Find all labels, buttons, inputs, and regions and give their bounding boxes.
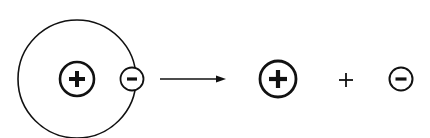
free-electron-icon — [390, 68, 413, 91]
plus-operator-icon — [339, 73, 353, 87]
ionization-diagram — [0, 0, 430, 138]
nucleus-proton-icon — [60, 62, 94, 96]
reaction-arrow-icon — [160, 76, 226, 83]
free-proton-icon — [260, 61, 296, 97]
bound-electron-icon — [121, 68, 144, 91]
